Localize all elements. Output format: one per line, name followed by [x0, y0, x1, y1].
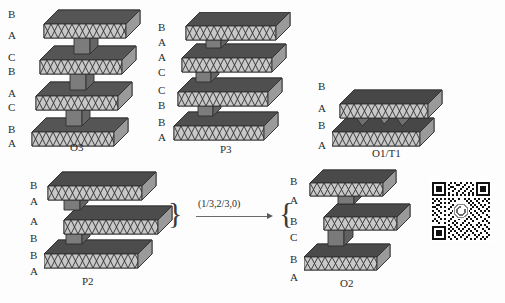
- crystal-stacking-figure: B A C B A C B A: [0, 0, 505, 303]
- stack-label: B: [30, 233, 38, 244]
- stack-label: A: [158, 52, 166, 63]
- stack-label: C: [158, 67, 166, 78]
- qr-code[interactable]: [430, 180, 492, 242]
- o3-polyhedra-diagram: [22, 4, 157, 156]
- stack-label: B: [290, 216, 298, 227]
- o2-polyhedra-diagram: [304, 168, 422, 280]
- structure-caption-p3: P3: [220, 144, 232, 155]
- stack-label: A: [158, 37, 166, 48]
- stack-label: B: [30, 180, 38, 191]
- stack-label: A: [318, 103, 326, 114]
- structure-p2: B A A B B A: [20, 168, 185, 293]
- stack-label: A: [8, 30, 16, 41]
- transformation-arrow-line: [196, 216, 268, 217]
- stack-label: A: [30, 216, 38, 227]
- stack-label: A: [30, 266, 38, 277]
- stack-label: B: [30, 250, 38, 261]
- stack-label: B: [318, 81, 326, 92]
- stack-label: B: [8, 66, 16, 77]
- structure-caption-o3: O3: [70, 142, 83, 153]
- stack-label: A: [30, 196, 38, 207]
- stack-label: C: [8, 52, 16, 63]
- stack-label: A: [8, 88, 16, 99]
- stack-label: B: [290, 254, 298, 265]
- stack-label: B: [8, 124, 16, 135]
- o1t1-polyhedra-diagram: [332, 74, 464, 152]
- stack-label: A: [158, 132, 166, 143]
- stack-label: B: [290, 176, 298, 187]
- stack-label: B: [318, 120, 326, 131]
- stack-label: B: [158, 117, 166, 128]
- stack-label: A: [8, 138, 16, 149]
- p2-polyhedra-diagram: [44, 168, 184, 278]
- qr-code-matrix: [430, 180, 492, 242]
- structure-o2: B A B C B A: [288, 168, 438, 293]
- stack-label: C: [158, 85, 166, 96]
- stack-label: A: [290, 195, 298, 206]
- stack-label: C: [8, 102, 16, 113]
- structure-o3: B A C B A C B A: [0, 0, 160, 160]
- stack-label: C: [290, 232, 298, 243]
- left-group-brace: }: [168, 198, 182, 228]
- structure-caption-p2: P2: [82, 276, 94, 287]
- stack-label: A: [290, 272, 298, 283]
- structure-caption-o2: O2: [340, 278, 353, 289]
- p3-polyhedra-diagram: [170, 12, 310, 152]
- transformation-arrow-head: [267, 213, 273, 219]
- stack-label: B: [158, 22, 166, 33]
- structure-p3: B A A C C B B A: [150, 0, 310, 160]
- stack-label: B: [158, 100, 166, 111]
- transformation-vector-label: (1/3,2/3,0): [198, 199, 240, 209]
- structure-caption-o1t1: O1/T1: [372, 148, 401, 159]
- stack-label: B: [8, 9, 16, 20]
- stack-label: A: [318, 140, 326, 151]
- structure-o1t1: B A B A: [310, 70, 475, 160]
